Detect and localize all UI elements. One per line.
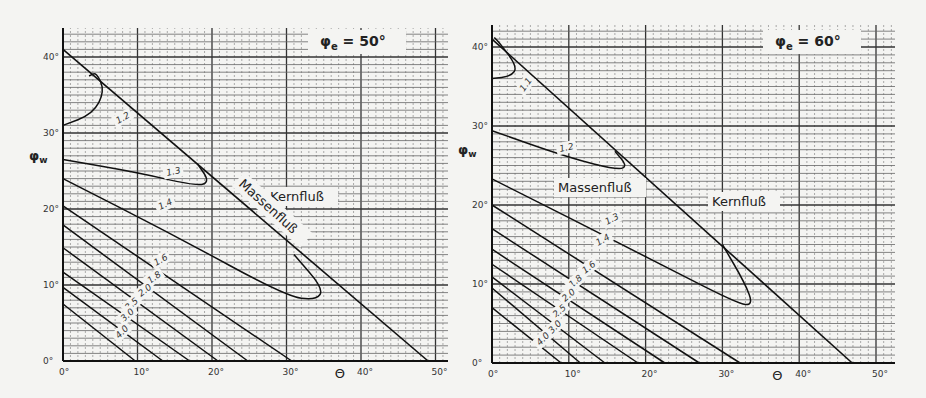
curve-1-6: [63, 206, 292, 361]
x-tick-label: 20°: [642, 369, 658, 379]
y-tick-label: 40°: [43, 52, 59, 62]
x-tick-label: 0°: [488, 369, 498, 379]
chart-panel-2: 0°10°20°30°40°50°0°10°20°30°40°Θφwφe = 6…: [458, 25, 895, 383]
x-tick-label: 30°: [283, 367, 299, 377]
y-axis-label: φw: [29, 148, 48, 165]
y-tick-label: 10°: [43, 280, 59, 290]
x-tick-label: 20°: [208, 367, 224, 377]
region-label-kernfluss: Kernfluß: [712, 194, 766, 209]
boundary-line: [63, 49, 428, 361]
region-label-kernfluss: Kernfluß: [270, 189, 324, 204]
curve-1-1: [492, 38, 515, 79]
region-label-massenfluss: Massenfluß: [558, 180, 632, 195]
y-tick-label: 0°: [472, 358, 482, 368]
x-tick-label: 40°: [357, 367, 373, 377]
y-tick-label: 20°: [472, 200, 488, 210]
x-tick-label: 0°: [59, 367, 69, 377]
x-tick-label: 50°: [872, 369, 888, 379]
y-tick-label: 0°: [43, 356, 53, 366]
curve-2-5: [492, 277, 605, 363]
chart-panel-1: 0°10°20°30°40°50°0°10°20°30°40°Θφwφe = 5…: [29, 28, 448, 381]
x-tick-label: 10°: [565, 369, 581, 379]
chart-canvas: 0°10°20°30°40°50°0°10°20°30°40°Θφwφe = 5…: [0, 0, 926, 398]
x-tick-label: 40°: [795, 369, 811, 379]
curve-1-6: [492, 229, 699, 363]
y-tick-label: 30°: [43, 128, 59, 138]
y-tick-label: 10°: [472, 279, 488, 289]
y-tick-label: 30°: [472, 121, 488, 131]
x-tick-label: 50°: [432, 367, 448, 377]
x-tick-label: 30°: [718, 369, 734, 379]
y-axis-label: φw: [458, 142, 477, 159]
x-axis-label: Θ: [772, 368, 782, 383]
y-tick-label: 20°: [43, 204, 59, 214]
y-tick-label: 40°: [472, 42, 488, 52]
x-tick-label: 10°: [134, 367, 150, 377]
curve-1-8: [492, 249, 665, 363]
x-axis-label: Θ: [335, 366, 345, 381]
